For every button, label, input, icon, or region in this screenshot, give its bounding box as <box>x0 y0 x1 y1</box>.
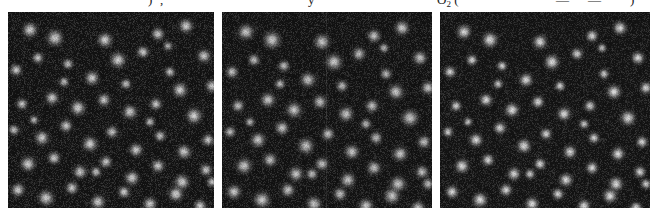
clipped-caption-strip: ),yO2 (——) <box>0 0 656 9</box>
caption-fragment-5: — <box>588 0 601 6</box>
left-panel-image <box>8 12 214 208</box>
left-panel <box>8 12 214 208</box>
caption-fragment-1: , <box>160 0 163 6</box>
caption-fragment-2: y <box>308 0 315 6</box>
figure-root: ),yO2 (——) <box>0 0 656 220</box>
middle-panel <box>222 12 432 208</box>
middle-panel-image <box>222 12 432 208</box>
caption-fragment-0: ) <box>148 0 152 6</box>
right-panel-image <box>440 12 650 208</box>
caption-fragment-3: O2 ( <box>437 0 458 9</box>
right-panel <box>440 12 650 208</box>
caption-fragment-6: ) <box>630 0 634 6</box>
caption-fragment-4: — <box>556 0 569 6</box>
